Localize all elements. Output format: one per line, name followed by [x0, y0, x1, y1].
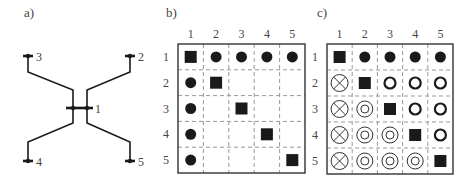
filled-circle-icon	[410, 52, 421, 63]
row-label: 3	[312, 102, 318, 116]
double-ring-icon	[382, 153, 398, 169]
ring-icon	[410, 78, 421, 89]
column-label: 1	[337, 27, 343, 41]
double-ring-icon	[357, 101, 373, 117]
crossed-circle-icon	[331, 153, 348, 170]
column-label: 5	[437, 27, 443, 41]
square-icon	[334, 51, 346, 63]
ring-icon	[435, 104, 446, 115]
ring-icon	[435, 78, 446, 89]
crossed-circle-icon	[331, 101, 348, 118]
double-ring-icon	[357, 127, 373, 143]
matrix-c: 1234512345	[0, 0, 476, 184]
square-icon	[434, 155, 446, 167]
column-label: 4	[412, 27, 418, 41]
crossed-circle-icon	[331, 127, 348, 144]
filled-circle-icon	[359, 52, 370, 63]
ring-icon	[410, 104, 421, 115]
square-icon	[409, 129, 421, 141]
row-label: 5	[312, 154, 318, 168]
filled-circle-icon	[435, 52, 446, 63]
row-label: 4	[312, 128, 318, 142]
double-ring-icon	[357, 153, 373, 169]
column-label: 3	[387, 27, 393, 41]
filled-circle-icon	[385, 52, 396, 63]
row-label: 2	[312, 76, 318, 90]
column-label: 2	[362, 27, 368, 41]
square-icon	[359, 77, 371, 89]
ring-icon	[385, 78, 396, 89]
double-ring-icon	[407, 153, 423, 169]
crossed-circle-icon	[331, 75, 348, 92]
row-label: 1	[312, 50, 318, 64]
square-icon	[384, 103, 396, 115]
double-ring-icon	[382, 127, 398, 143]
ring-icon	[435, 130, 446, 141]
